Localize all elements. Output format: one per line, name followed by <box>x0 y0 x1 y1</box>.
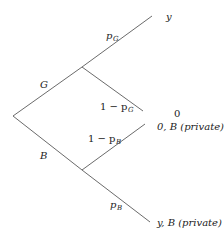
outcome-bottom: y, B (private) <box>157 218 222 228</box>
decision-tree-diagram: G B pG 1 − pG 1 − pB pB y 0 0, B (privat… <box>0 0 224 240</box>
label-one-minus-pG-main: 1 − p <box>100 101 128 112</box>
label-pG-main: p <box>106 30 112 41</box>
branch-one-minus-pB <box>82 124 145 170</box>
label-one-minus-pG-sub: G <box>128 106 134 114</box>
outcome-middle-upper: 0 <box>174 109 180 119</box>
label-pG-sub: G <box>113 35 119 43</box>
label-one-minus-pB-sub: B <box>116 138 121 146</box>
label-pB-main: p <box>110 199 116 210</box>
outcome-middle-lower: 0, B (private) <box>157 122 224 132</box>
label-pB: pB <box>110 200 122 212</box>
outcome-top: y <box>166 12 172 22</box>
label-one-minus-pB-main: 1 − p <box>88 133 116 144</box>
label-pG: pG <box>106 31 119 43</box>
branch-pB <box>82 170 150 222</box>
label-G: G <box>40 80 48 90</box>
branch-B <box>13 116 82 170</box>
label-pB-sub: B <box>117 204 122 212</box>
label-B: B <box>40 151 47 161</box>
branch-G <box>13 67 82 116</box>
label-one-minus-pB: 1 − pB <box>88 134 121 146</box>
label-one-minus-pG: 1 − pG <box>100 102 134 114</box>
